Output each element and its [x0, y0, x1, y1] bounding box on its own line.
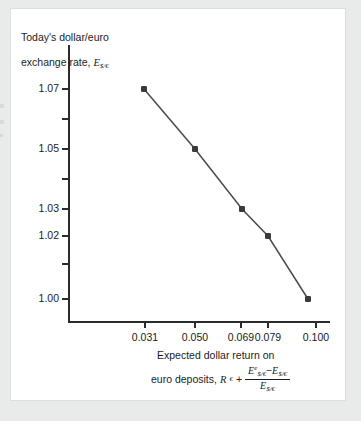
plot-area: 1.071.051.031.021.00 0.0310.0500.0690.07…: [11, 9, 345, 400]
plus-operator: +: [236, 373, 242, 386]
page-bleed-artifact: [0, 120, 4, 124]
data-point-marker: [305, 296, 311, 302]
expected-depreciation-fraction: Ee$/€−E$/€ E$/€: [245, 365, 290, 394]
numerator-b-subscript: $/€: [278, 370, 287, 378]
data-point-marker: [239, 206, 245, 212]
denominator-subscript: $/€: [266, 385, 275, 393]
fraction-numerator: Ee$/€−E$/€: [245, 365, 290, 379]
data-point-marker: [265, 233, 271, 239]
return-symbol: R: [220, 373, 226, 386]
series-markers: [141, 86, 311, 302]
data-point-marker: [141, 86, 147, 92]
data-series: [11, 9, 345, 400]
x-axis-caption-line1: Expected dollar return on: [151, 349, 346, 362]
return-symbol-subscript: €: [229, 373, 233, 386]
figure-card: Today's dollar/euro exchange rate, E$/€ …: [11, 9, 345, 400]
page-bleed-artifact: [0, 104, 4, 108]
data-point-marker: [192, 146, 198, 152]
figure-page: Today's dollar/euro exchange rate, E$/€ …: [0, 0, 361, 421]
x-axis-caption-line2: euro deposits, R€ + Ee$/€−E$/€ E$/€: [151, 365, 346, 394]
fraction-denominator: E$/€: [257, 380, 278, 393]
series-line: [144, 89, 308, 299]
x-axis-caption: Expected dollar return on euro deposits,…: [151, 349, 346, 394]
x-axis-caption-prefix: euro deposits,: [151, 373, 217, 386]
page-bleed-artifact: [0, 134, 3, 137]
numerator-a-subscript: $/€: [257, 370, 266, 378]
